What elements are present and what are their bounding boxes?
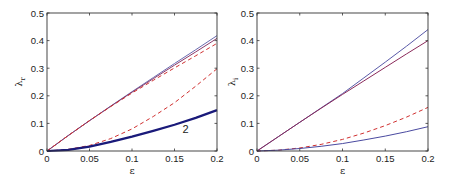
x-tick-label: 0.2	[210, 153, 223, 164]
y-tick-label: 0.4	[31, 35, 44, 46]
axes-frame	[257, 13, 428, 151]
left-panel: 00.050.10.150.200.10.20.30.40.5ελr2	[13, 8, 224, 177]
series-line-dashed-lower	[257, 107, 428, 151]
x-tick-label: 0	[44, 153, 49, 164]
figure: 00.050.10.150.200.10.20.30.40.5ελr2 00.0…	[0, 0, 449, 180]
y-axis-ticks: 00.10.20.30.40.5	[241, 8, 428, 157]
y-tick-label: 0.2	[241, 90, 254, 101]
y-tick-label: 0.5	[241, 8, 254, 19]
x-tick-label: 0.15	[165, 153, 184, 164]
series-line-solid-upper-1	[47, 36, 217, 151]
y-tick-label: 0	[249, 146, 254, 157]
x-axis-label: ε	[340, 165, 345, 176]
series-line-dashed-lower	[47, 69, 217, 151]
series-line-solid-upper-2	[47, 38, 217, 151]
series-line-solid-upper-purple	[257, 41, 428, 151]
x-tick-label: 0.05	[80, 153, 99, 164]
series-line-solid-lower-blue	[257, 127, 428, 151]
y-axis-label: λr	[13, 77, 27, 87]
y-tick-label: 0.3	[241, 63, 254, 74]
x-axis-ticks: 00.050.10.150.2	[44, 13, 223, 164]
curve-annotation: 2	[182, 123, 188, 135]
x-tick-label: 0.2	[421, 153, 434, 164]
data-lines	[257, 30, 428, 151]
y-tick-label: 0.2	[31, 90, 44, 101]
right-panel: 00.050.10.150.200.10.20.30.40.5ελi	[226, 8, 435, 177]
x-tick-label: 0	[254, 153, 259, 164]
data-lines	[47, 36, 217, 151]
y-tick-label: 0.1	[241, 118, 254, 129]
x-axis-ticks: 00.050.10.150.2	[254, 13, 434, 164]
x-axis-label: ε	[129, 165, 134, 176]
x-tick-label: 0.15	[376, 153, 395, 164]
x-tick-label: 0.05	[291, 153, 310, 164]
y-tick-label: 0.3	[31, 63, 44, 74]
y-tick-label: 0.4	[241, 35, 254, 46]
y-tick-label: 0	[39, 146, 44, 157]
x-tick-label: 0.1	[125, 153, 138, 164]
y-tick-label: 0.1	[31, 118, 44, 129]
y-tick-label: 0.5	[31, 8, 44, 19]
axes-frame	[47, 13, 217, 151]
y-axis-label: λi	[226, 77, 240, 86]
y-axis-ticks: 00.10.20.30.40.5	[31, 8, 217, 157]
x-tick-label: 0.1	[336, 153, 349, 164]
series-line-solid-thick-2	[47, 110, 217, 151]
series-line-dashed-upper	[47, 43, 217, 151]
